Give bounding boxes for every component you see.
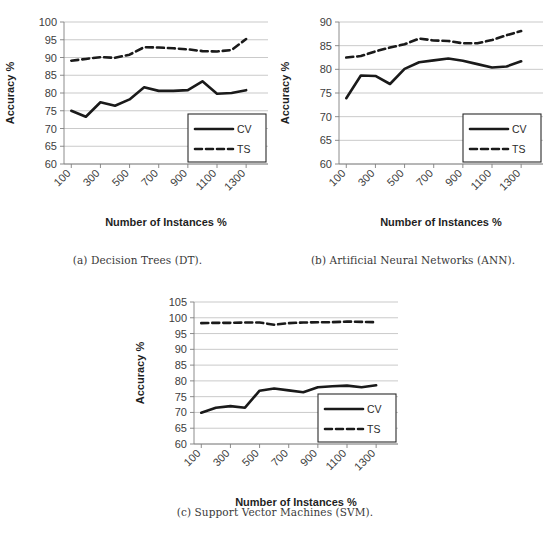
y-tick-label: 90 (175, 343, 187, 355)
x-tick-label: 100 (326, 167, 347, 188)
legend-label-ts: TS (237, 143, 250, 155)
x-tick-label: 300 (210, 447, 231, 468)
x-tick-label: 500 (385, 167, 406, 188)
x-tick-label: 900 (168, 167, 189, 188)
y-tick-label: 65 (320, 134, 332, 146)
x-tick-label: 1300 (352, 447, 378, 473)
chart-panel-b: 6065707580859010030050070090011001300Acc… (275, 4, 551, 276)
y-tick-label: 85 (320, 40, 332, 52)
y-tick-label: 60 (175, 438, 187, 450)
series-line-cv (71, 81, 246, 117)
x-tick-label: 900 (298, 447, 319, 468)
y-axis-title: Accuracy % (134, 342, 146, 405)
y-tick-label: 90 (320, 16, 332, 28)
x-tick-label: 500 (110, 167, 131, 188)
x-axis-title: Number of Instances % (380, 216, 502, 228)
y-tick-label: 95 (175, 328, 187, 340)
x-tick-label: 1100 (468, 167, 493, 192)
legend-label-cv: CV (367, 403, 382, 415)
chart-caption-a: (a) Decision Trees (DT). (0, 254, 275, 266)
y-tick-label: 80 (45, 87, 57, 99)
y-tick-label: 65 (45, 140, 57, 152)
x-tick-label: 100 (181, 447, 202, 468)
x-tick-label: 100 (51, 167, 72, 188)
x-tick-label: 1100 (323, 447, 348, 472)
y-tick-label: 75 (45, 105, 57, 117)
chart-svg: 6065707580859010030050070090011001300Acc… (275, 4, 550, 249)
x-tick-label: 700 (414, 167, 435, 188)
x-tick-label: 700 (139, 167, 160, 188)
chart-plot-c: 6065707580859095100105100300500700900110… (130, 284, 420, 529)
y-axis-title: Accuracy % (279, 62, 291, 125)
legend-box (463, 114, 541, 162)
y-tick-label: 85 (175, 359, 187, 371)
chart-plot-b: 6065707580859010030050070090011001300Acc… (275, 4, 551, 249)
y-tick-label: 65 (175, 422, 187, 434)
y-tick-label: 80 (320, 63, 332, 75)
chart-panel-c: 6065707580859095100105100300500700900110… (130, 284, 420, 532)
chart-svg: 6065707580859095100100300500700900110013… (0, 4, 275, 249)
series-line-ts (346, 31, 521, 58)
x-tick-label: 1300 (497, 167, 523, 193)
y-tick-label: 70 (175, 406, 187, 418)
y-tick-label: 60 (320, 158, 332, 170)
y-tick-label: 70 (320, 111, 332, 123)
x-tick-label: 300 (80, 167, 101, 188)
y-tick-label: 90 (45, 52, 57, 64)
chart-caption-b: (b) Artificial Neural Networks (ANN). (275, 254, 551, 266)
y-tick-label: 95 (45, 34, 57, 46)
chart-svg: 6065707580859095100105100300500700900110… (130, 284, 405, 529)
y-tick-label: 100 (39, 16, 57, 28)
figure-container: 6065707580859095100100300500700900110013… (0, 0, 551, 536)
chart-caption-c: (c) Support Vector Machines (SVM). (130, 506, 420, 518)
y-tick-label: 75 (175, 391, 187, 403)
chart-panel-a: 6065707580859095100100300500700900110013… (0, 4, 275, 276)
x-tick-label: 900 (443, 167, 464, 188)
series-line-cv (346, 58, 521, 98)
y-tick-label: 100 (169, 312, 187, 324)
y-tick-label: 80 (175, 375, 187, 387)
x-tick-label: 700 (269, 447, 290, 468)
chart-plot-a: 6065707580859095100100300500700900110013… (0, 4, 275, 249)
y-axis-title: Accuracy % (4, 62, 16, 125)
y-tick-label: 105 (169, 296, 187, 308)
y-tick-label: 60 (45, 158, 57, 170)
y-tick-label: 70 (45, 123, 57, 135)
x-tick-label: 300 (355, 167, 376, 188)
legend-box (318, 394, 396, 442)
x-tick-label: 1100 (193, 167, 218, 192)
legend-label-ts: TS (367, 423, 380, 435)
x-tick-label: 500 (240, 447, 261, 468)
legend-label-ts: TS (512, 143, 525, 155)
y-tick-label: 75 (320, 87, 332, 99)
x-tick-label: 1300 (222, 167, 248, 193)
series-line-ts (201, 322, 376, 325)
legend-label-cv: CV (237, 123, 252, 135)
x-axis-title: Number of Instances % (105, 216, 227, 228)
y-tick-label: 85 (45, 69, 57, 81)
legend-label-cv: CV (512, 123, 527, 135)
legend-box (188, 114, 266, 162)
